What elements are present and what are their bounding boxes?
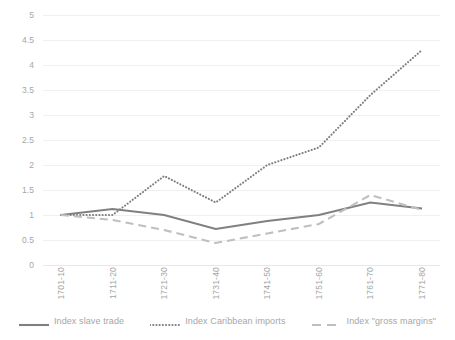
x-tick-label: 1711-20: [108, 267, 118, 299]
legend-label: Index slave trade: [54, 316, 124, 326]
legend-label: Index Caribbean imports: [185, 316, 285, 326]
y-tick-label: 3.5: [22, 85, 34, 95]
series-line-1: [61, 50, 422, 215]
plot-area: [43, 15, 440, 265]
y-tick-label: 2: [29, 160, 34, 170]
x-tick-label: 1731-40: [211, 267, 221, 300]
x-axis: 1701-101711-201721-301731-401741-501751-…: [43, 267, 440, 312]
legend-label: Index "gross margins": [347, 316, 437, 326]
y-tick-label: 5: [29, 10, 34, 20]
chart-container: 54.543.532.521.510.50 1701-101711-201721…: [0, 0, 455, 340]
y-tick-label: 1.5: [22, 185, 34, 195]
series-line-0: [61, 203, 422, 230]
x-tick-label: 1741-50: [262, 267, 272, 300]
x-tick-label: 1701-10: [56, 267, 66, 300]
legend-item-1[interactable]: Index Caribbean imports: [150, 316, 285, 326]
y-tick-label: 0.5: [22, 235, 34, 245]
y-tick-label: 4.5: [22, 35, 34, 45]
chart-legend: Index slave tradeIndex Caribbean imports…: [0, 316, 455, 326]
y-tick-label: 2.5: [22, 135, 34, 145]
x-tick-label: 1771-80: [417, 267, 427, 300]
y-tick-label: 1: [29, 210, 34, 220]
legend-swatch-icon: [312, 316, 342, 326]
x-tick-label: 1751-60: [314, 267, 324, 300]
series-lines: [43, 15, 440, 265]
legend-item-0[interactable]: Index slave trade: [19, 316, 124, 326]
x-tick-label: 1761-70: [365, 267, 375, 300]
legend-swatch-icon: [19, 316, 49, 326]
y-tick-label: 4: [29, 60, 34, 70]
y-tick-label: 3: [29, 110, 34, 120]
y-tick-label: 0: [29, 260, 34, 270]
y-axis: 54.543.532.521.510.50: [0, 15, 38, 265]
x-tick-label: 1721-30: [159, 267, 169, 300]
gridline: [43, 265, 440, 266]
legend-swatch-icon: [150, 316, 180, 326]
legend-item-2[interactable]: Index "gross margins": [312, 316, 437, 326]
